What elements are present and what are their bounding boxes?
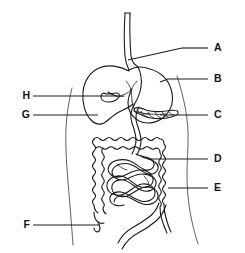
body-outline-left bbox=[66, 88, 73, 245]
colon-ascending-outer bbox=[93, 139, 99, 213]
label-B: B bbox=[214, 72, 222, 84]
digestive-system-diagram: A B C D E F G H bbox=[0, 0, 245, 253]
leader-lines-group bbox=[33, 48, 208, 225]
label-D: D bbox=[214, 152, 222, 164]
esophagus-group bbox=[124, 13, 138, 70]
label-H: H bbox=[22, 89, 30, 101]
hepatic-duct-stem bbox=[131, 90, 132, 101]
label-A: A bbox=[214, 41, 222, 53]
label-G: G bbox=[22, 108, 30, 120]
colon-ascending-inner bbox=[102, 148, 106, 214]
hepatic-duct-left-branch bbox=[126, 81, 131, 90]
label-E: E bbox=[214, 181, 221, 193]
label-C: C bbox=[214, 108, 222, 120]
gallbladder-sac bbox=[101, 93, 119, 102]
esophagus-left-wall bbox=[124, 13, 129, 70]
colon-rectum-outer bbox=[122, 205, 166, 249]
digestive-system-figure: A B C D E F G H bbox=[0, 0, 245, 253]
small-intestine-loop-detail-1 bbox=[117, 164, 127, 170]
appendix-body bbox=[94, 222, 100, 232]
label-F: F bbox=[24, 218, 31, 230]
leader-line-A-ext bbox=[128, 48, 182, 60]
colon-cecum bbox=[94, 212, 104, 223]
pancreas-group bbox=[134, 108, 178, 119]
appendix-group bbox=[94, 222, 100, 232]
body-outline-right bbox=[177, 76, 198, 244]
labels-group: A B C D E F G H bbox=[22, 41, 222, 230]
hepatic-duct-right-branch bbox=[131, 81, 137, 90]
stomach-lesser-curvature bbox=[134, 67, 141, 105]
gallbladder-group bbox=[101, 81, 137, 113]
small-intestine-group bbox=[107, 154, 158, 206]
